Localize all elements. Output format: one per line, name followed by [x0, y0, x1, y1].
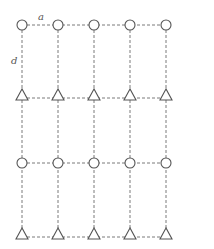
triangle-node-icon	[88, 89, 100, 100]
circle-node-icon	[125, 158, 135, 168]
circle-node-icon	[53, 158, 63, 168]
circle-node-icon	[17, 20, 27, 30]
triangle-node-icon	[160, 228, 172, 239]
triangle-node-icon	[16, 89, 28, 100]
triangle-node-icon	[52, 228, 64, 239]
triangle-node-icon	[52, 89, 64, 100]
circle-node-icon	[161, 20, 171, 30]
triangle-node-icon	[16, 228, 28, 239]
circle-node-icon	[17, 158, 27, 168]
circle-node-icon	[125, 20, 135, 30]
circle-node-icon	[89, 158, 99, 168]
lattice-diagram: a d	[0, 0, 214, 249]
triangle-node-icon	[124, 228, 136, 239]
circle-node-icon	[161, 158, 171, 168]
triangle-node-icon	[88, 228, 100, 239]
grid-lines	[22, 25, 166, 237]
circle-node-icon	[89, 20, 99, 30]
triangle-node-icon	[160, 89, 172, 100]
triangle-node-icon	[124, 89, 136, 100]
label-d: d	[11, 55, 17, 66]
label-a: a	[38, 11, 44, 22]
circle-node-icon	[53, 20, 63, 30]
